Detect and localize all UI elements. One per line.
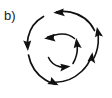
figure-panel-b: b) <box>0 0 112 98</box>
vortex-arrow-diagram <box>0 0 112 98</box>
panel-label: b) <box>4 8 16 23</box>
